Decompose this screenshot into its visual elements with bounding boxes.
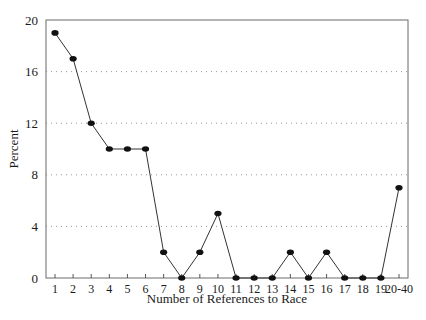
data-point — [88, 120, 95, 126]
data-point — [287, 249, 294, 255]
y-axis-label: Percent — [6, 129, 21, 168]
y-tick-label: 4 — [32, 219, 39, 234]
data-point — [106, 146, 113, 152]
data-point — [160, 249, 167, 255]
data-point — [142, 146, 149, 152]
x-tick-label: 4 — [106, 282, 112, 296]
data-point — [395, 185, 402, 191]
y-tick-label: 16 — [25, 64, 39, 79]
y-tick-label: 8 — [32, 167, 39, 182]
data-point — [196, 249, 203, 255]
x-tick-label: 17 — [339, 282, 351, 296]
gridlines — [46, 72, 408, 227]
data-point — [323, 249, 330, 255]
data-point — [232, 275, 239, 281]
data-point — [214, 211, 221, 217]
data-point — [269, 275, 276, 281]
data-point — [341, 275, 348, 281]
x-tick-label: 18 — [357, 282, 369, 296]
data-point — [124, 146, 131, 152]
y-axis: 048121620 — [25, 13, 39, 286]
x-axis-label: Number of References to Race — [147, 291, 307, 306]
y-tick-label: 20 — [25, 13, 38, 28]
data-point — [251, 275, 258, 281]
chart-canvas: 048121620 123456789101112131415161718192… — [0, 0, 426, 320]
x-tick-label: 3 — [88, 282, 94, 296]
data-point — [51, 30, 58, 36]
x-tick-label: 20-40 — [385, 282, 413, 296]
x-tick-label: 1 — [52, 282, 58, 296]
data-series — [51, 30, 402, 281]
data-point — [178, 275, 185, 281]
data-point — [70, 56, 77, 62]
y-tick-label: 0 — [32, 271, 39, 286]
x-tick-label: 2 — [70, 282, 76, 296]
line-chart: 048121620 123456789101112131415161718192… — [0, 0, 426, 320]
plot-frame — [46, 20, 408, 278]
series-line — [55, 33, 399, 278]
y-tick-label: 12 — [25, 116, 38, 131]
x-tick-label: 16 — [321, 282, 333, 296]
data-point — [377, 275, 384, 281]
x-tick-label: 5 — [124, 282, 130, 296]
data-point — [305, 275, 312, 281]
data-point — [359, 275, 366, 281]
